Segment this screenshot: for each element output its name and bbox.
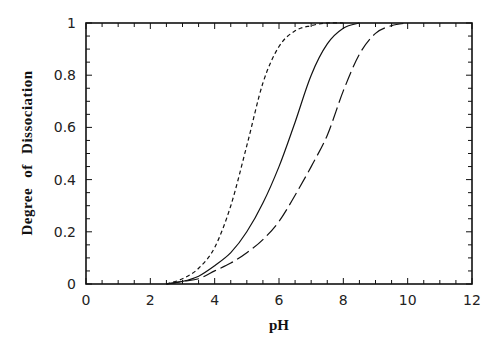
x-tick-label: 10 bbox=[399, 292, 417, 308]
data-series bbox=[166, 23, 407, 284]
y-axis-title: Degree of Dissociation bbox=[19, 70, 35, 235]
series-solid-line bbox=[166, 23, 359, 284]
y-tick-labels: 00.20.40.60.81 bbox=[54, 15, 76, 292]
x-tick-label: 12 bbox=[463, 292, 481, 308]
y-tick-label: 0.6 bbox=[54, 119, 76, 135]
series-long-dash-line bbox=[166, 23, 407, 284]
y-tick-label: 0 bbox=[67, 276, 76, 292]
x-tick-label: 4 bbox=[210, 292, 219, 308]
plot-frame bbox=[86, 23, 472, 284]
plot-border bbox=[86, 23, 472, 284]
x-tick-label: 8 bbox=[339, 292, 348, 308]
axis-ticks bbox=[86, 23, 472, 284]
y-tick-label: 1 bbox=[67, 15, 76, 31]
chart: 024681012 00.20.40.60.81 pH Degree of Di… bbox=[0, 0, 502, 346]
x-tick-label: 0 bbox=[82, 292, 91, 308]
y-tick-label: 0.2 bbox=[54, 224, 76, 240]
x-tick-label: 6 bbox=[275, 292, 284, 308]
x-tick-label: 2 bbox=[146, 292, 155, 308]
y-tick-label: 0.8 bbox=[54, 67, 76, 83]
x-axis-title: pH bbox=[269, 317, 289, 333]
y-tick-label: 0.4 bbox=[54, 172, 76, 188]
x-tick-labels: 024681012 bbox=[82, 292, 481, 308]
